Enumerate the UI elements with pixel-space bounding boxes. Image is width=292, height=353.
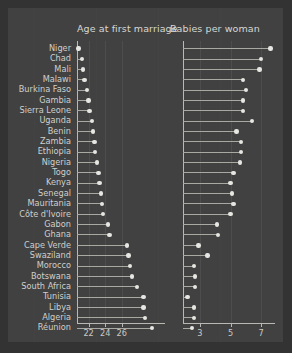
country-label: Tunisia <box>8 291 74 301</box>
x-tick <box>231 324 232 327</box>
stem-line <box>77 286 137 287</box>
data-point[interactable] <box>76 46 80 50</box>
data-point[interactable] <box>135 285 139 289</box>
country-label: Sierra Leone <box>8 105 74 115</box>
data-point[interactable] <box>234 129 238 133</box>
data-point[interactable] <box>244 88 248 92</box>
data-point[interactable] <box>80 57 84 61</box>
stem-line <box>183 162 240 163</box>
data-point[interactable] <box>107 233 111 237</box>
data-point[interactable] <box>238 160 242 164</box>
stem-line <box>183 100 243 101</box>
data-point[interactable] <box>241 109 245 113</box>
data-point[interactable] <box>239 140 243 144</box>
data-point[interactable] <box>215 222 219 226</box>
data-point[interactable] <box>128 264 132 268</box>
country-label: Botswana <box>8 271 74 281</box>
data-point[interactable] <box>141 305 145 309</box>
data-point[interactable] <box>106 222 110 226</box>
frame-margin-bottom <box>0 342 292 353</box>
data-point[interactable] <box>95 160 99 164</box>
country-label: Réunion <box>8 322 74 332</box>
data-point[interactable] <box>259 57 263 61</box>
data-point[interactable] <box>196 243 200 247</box>
data-point[interactable] <box>268 46 272 50</box>
country-label: Benin <box>8 126 74 136</box>
stem-line <box>183 121 252 122</box>
data-point[interactable] <box>90 119 94 123</box>
data-point[interactable] <box>126 253 130 257</box>
stem-line <box>77 172 99 173</box>
stem-line <box>183 203 234 204</box>
data-point[interactable] <box>257 67 261 71</box>
country-label: Chad <box>8 53 74 63</box>
data-point[interactable] <box>93 150 97 154</box>
x-tick-label: 22 <box>83 328 93 338</box>
country-label: Mauritania <box>8 198 74 208</box>
country-label: Uganda <box>8 115 74 125</box>
x-tick <box>89 324 90 327</box>
stem-line <box>77 162 97 163</box>
data-point[interactable] <box>81 67 85 71</box>
data-point[interactable] <box>205 253 209 257</box>
country-label: Burkina Faso <box>8 84 74 94</box>
stem-line <box>183 141 241 142</box>
data-point[interactable] <box>125 243 129 247</box>
data-point[interactable] <box>86 98 90 102</box>
stem-line <box>77 276 132 277</box>
data-point[interactable] <box>193 274 197 278</box>
x-tick-label: 24 <box>100 328 110 338</box>
data-point[interactable] <box>241 78 245 82</box>
data-point[interactable] <box>91 129 95 133</box>
data-point[interactable] <box>92 140 96 144</box>
data-point[interactable] <box>250 119 254 123</box>
data-point[interactable] <box>241 98 245 102</box>
data-point[interactable] <box>193 285 197 289</box>
data-point[interactable] <box>82 78 86 82</box>
data-point[interactable] <box>231 202 235 206</box>
stem-line <box>77 203 102 204</box>
data-point[interactable] <box>185 295 189 299</box>
plot-area-age-at-first-marriage <box>77 43 165 323</box>
data-point[interactable] <box>192 264 196 268</box>
stem-line <box>183 152 241 153</box>
stem-line <box>77 214 103 215</box>
data-point[interactable] <box>143 316 147 320</box>
data-point[interactable] <box>239 150 243 154</box>
data-point[interactable] <box>99 191 103 195</box>
stem-line <box>77 245 127 246</box>
data-point[interactable] <box>231 171 235 175</box>
stem-line <box>183 69 260 70</box>
panel-title-babies-per-woman: Babies per woman <box>170 23 260 34</box>
x-tick-label: 5 <box>228 328 233 338</box>
data-point[interactable] <box>230 191 234 195</box>
data-point[interactable] <box>228 181 232 185</box>
panel-title-age-at-first-marriage: Age at first marriage <box>77 23 178 34</box>
data-point[interactable] <box>192 305 196 309</box>
stem-line <box>183 255 208 256</box>
country-label: Togo <box>8 167 74 177</box>
stem-line <box>77 234 109 235</box>
stem-line <box>183 214 231 215</box>
stem-line <box>77 307 143 308</box>
x-tick-label: 3 <box>197 328 202 338</box>
data-point[interactable] <box>228 212 232 216</box>
stem-line <box>183 183 231 184</box>
data-point[interactable] <box>216 233 220 237</box>
data-point[interactable] <box>100 202 104 206</box>
x-tick-label: 7 <box>259 328 264 338</box>
data-point[interactable] <box>192 316 196 320</box>
plot-area-babies-per-woman <box>183 43 275 323</box>
frame-margin-top <box>0 0 292 8</box>
data-point[interactable] <box>87 109 91 113</box>
stem-line <box>77 193 101 194</box>
stem-line <box>77 317 145 318</box>
data-point[interactable] <box>130 274 134 278</box>
data-point[interactable] <box>97 181 101 185</box>
data-point[interactable] <box>96 171 100 175</box>
country-label: Cape Verde <box>8 240 74 250</box>
country-label: Libya <box>8 302 74 312</box>
data-point[interactable] <box>141 295 145 299</box>
country-label: Kenya <box>8 177 74 187</box>
stem-line <box>77 183 99 184</box>
